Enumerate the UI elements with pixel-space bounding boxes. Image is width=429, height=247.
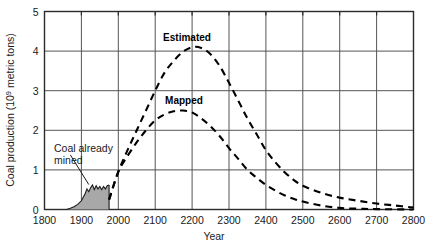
y-axis-title: Coal production (109 metric tons) — [4, 33, 17, 187]
x-tick-label-2000: 2000 — [107, 214, 131, 226]
y-tick-label-2: 2 — [33, 124, 39, 136]
y-axis-title-prefix: Coal production (10 — [4, 95, 16, 187]
y-tick-label-4: 4 — [33, 45, 39, 57]
x-tick-label-1900: 1900 — [70, 214, 94, 226]
chart-canvas: 1800190020002100220023002400250026002700… — [0, 0, 429, 247]
y-axis-title-suffix: metric tons) — [4, 33, 16, 91]
coal-already-mined-label-line1: Coal already — [54, 142, 114, 154]
y-tick-label-5: 5 — [33, 6, 39, 18]
y-tick-label-0: 0 — [33, 204, 39, 216]
x-tick-label-2200: 2200 — [180, 214, 204, 226]
mapped-curve-label: Mapped — [165, 95, 203, 106]
y-tick-label-3: 3 — [33, 85, 39, 97]
x-tick-label-2100: 2100 — [144, 214, 168, 226]
x-tick-label-2300: 2300 — [217, 214, 241, 226]
x-axis-title: Year — [203, 230, 225, 242]
x-tick-label-2500: 2500 — [291, 214, 315, 226]
x-tick-label-2700: 2700 — [365, 214, 389, 226]
coal-production-chart: 1800190020002100220023002400250026002700… — [0, 0, 429, 247]
coal-already-mined-label-line2: mined — [54, 154, 83, 166]
x-tick-label-2800: 2800 — [402, 214, 426, 226]
x-tick-label-2600: 2600 — [328, 214, 352, 226]
estimated-curve-label: Estimated — [163, 32, 211, 43]
x-tick-labels: 1800190020002100220023002400250026002700… — [33, 214, 426, 226]
y-tick-label-1: 1 — [33, 164, 39, 176]
x-tick-label-2400: 2400 — [254, 214, 278, 226]
